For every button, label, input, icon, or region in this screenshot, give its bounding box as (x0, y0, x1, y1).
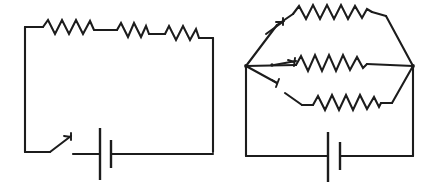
branch-bottom-switch[interactable] (246, 66, 279, 87)
right-circuit-branch-middle (246, 55, 413, 71)
branch-top-wire-right-diagonal (386, 16, 413, 66)
branch-bottom-wire-left-stub (285, 93, 302, 105)
branch-bottom-wire-right-diagonal (392, 66, 413, 103)
switch-blade[interactable] (50, 136, 71, 152)
branch-top-resistor (293, 5, 372, 19)
left-circuit-resistor-1 (43, 20, 97, 34)
branch-top-wire-right-stub (372, 12, 386, 16)
branch-top-wire-left-diagonal (246, 25, 277, 66)
branch-middle-resistor (296, 55, 367, 71)
branch-middle-wire-right (367, 64, 413, 66)
branch-bottom-resistor (313, 95, 381, 110)
circuit-diagram-figure: Two resistor circuit schematics (0, 0, 441, 187)
left-circuit-knife-switch[interactable] (50, 133, 71, 152)
left-circuit-battery-cell (100, 128, 111, 180)
left-circuit (25, 20, 213, 180)
right-circuit-battery-cell (328, 132, 340, 182)
right-circuit (244, 5, 415, 182)
left-circuit-resistor-3 (165, 26, 199, 40)
circuit-canvas (0, 0, 441, 187)
switch-terminal-hook (272, 79, 279, 87)
left-circuit-resistor-2 (117, 23, 149, 37)
right-circuit-branch-bottom (246, 66, 413, 110)
